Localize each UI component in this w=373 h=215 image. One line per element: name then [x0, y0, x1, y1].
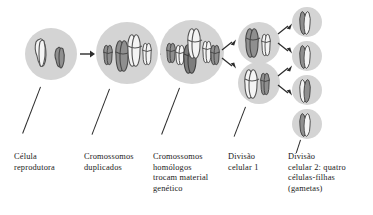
stage-4-cell-a	[238, 22, 280, 64]
stage-4-cell-a-chromosomes	[238, 22, 280, 64]
leader-line-stage-2	[92, 89, 110, 135]
leader-line-stage-4	[234, 107, 246, 137]
leader-line-stage-3	[161, 88, 180, 135]
meiosis-diagram: Célula reprodutora Cromossomos duplicado…	[0, 0, 373, 215]
stage-5-cell-2-chromosomes	[292, 41, 322, 71]
stage-5-cell-4	[292, 109, 322, 139]
stage-5-cell-4-chromosomes	[292, 109, 322, 139]
stage-1-label: Célula reprodutora	[14, 152, 80, 173]
stage-2-chromosomes	[96, 22, 158, 84]
stage-2-cell	[96, 22, 158, 84]
arrow-stage-3-to-4a	[222, 38, 238, 52]
stage-4-label: Divisão celular 1	[228, 152, 284, 173]
stage-5-cell-2	[292, 41, 322, 71]
stage-2-label: Cromossomos duplicados	[84, 152, 154, 173]
arrow-stage-1-to-2	[80, 48, 96, 60]
stage-3-cell	[160, 20, 224, 84]
stage-5-label: Divisão celular 2: quatro células-filhas…	[288, 152, 370, 194]
stage-3-label: Cromossomos homólogos trocam material ge…	[153, 152, 227, 194]
stage-3-chromosomes	[160, 20, 224, 84]
stage-5-cell-1-chromosomes	[292, 7, 322, 37]
arrow-stage-3-to-4b	[222, 57, 238, 71]
stage-5-cell-3-chromosomes	[292, 75, 322, 105]
stage-5-cell-1	[292, 7, 322, 37]
stage-1-cell	[25, 28, 77, 80]
leader-line-stage-1	[22, 87, 41, 134]
stage-1-chromosomes	[25, 28, 77, 80]
stage-4-cell-b	[238, 62, 280, 104]
stage-5-cell-3	[292, 75, 322, 105]
stage-4-cell-b-chromosomes	[238, 62, 280, 104]
